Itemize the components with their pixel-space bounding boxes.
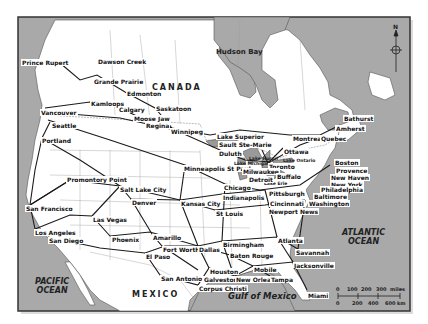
city-label: Moose Jaw (133, 115, 171, 122)
region-label-mexico: MEXICO (132, 290, 179, 299)
scale-km-600: 600 (385, 300, 395, 306)
city-label: Denver (131, 199, 157, 206)
city-label: Saskatoon (155, 105, 192, 112)
city-label: Philadelphia (320, 186, 364, 193)
water-label-gulf-of-mexico: Gulf of Mexico (228, 291, 297, 301)
city-label: Miami (307, 292, 329, 299)
city-label: Baton Rouge (229, 252, 274, 259)
city-label: Atlanta (277, 237, 304, 244)
city-label: Jacksonville (293, 262, 335, 269)
city-label: Promontory Point (66, 176, 128, 183)
city-label: Milwaukee (242, 168, 280, 175)
city-label: Calgary (118, 106, 146, 113)
city-label: Dallas (198, 246, 221, 253)
city-label: Indianapolis (222, 194, 265, 201)
city-label: Amarillo (152, 234, 182, 241)
city-label: Tampa (270, 276, 294, 283)
city-label: Pittsburgh (268, 190, 306, 197)
scale-km-200: 200 (352, 300, 362, 306)
city-label: Winnipeg (170, 128, 204, 135)
water-label-hudson-bay: Hudson Bay (216, 48, 263, 56)
city-label: Detroit (248, 176, 274, 183)
city-label: Prince Rupert (21, 59, 69, 66)
city-label: Sault Ste-Marie (218, 141, 273, 148)
city-label: Los Angeles (34, 229, 77, 236)
city-label: Baltimore (313, 193, 348, 200)
city-label: Ottawa (283, 148, 309, 155)
city-label: Phoenix (111, 236, 140, 243)
city-label: Portland (41, 137, 72, 144)
city-label: Cincinnati (269, 200, 305, 207)
city-label: Mobile (253, 266, 278, 273)
city-label: Fort Worth (162, 246, 201, 253)
city-label: Salt Lake City (119, 186, 167, 193)
city-label: Amherst (335, 125, 366, 132)
city-label: Vancouver (40, 109, 78, 116)
city-label: Regina (145, 122, 170, 129)
city-label: Corpus Christi (198, 285, 248, 292)
scale-miles-100: 100 (347, 286, 357, 292)
city-label: Edmonton (126, 90, 162, 97)
scale-miles-0: 0 (336, 286, 339, 292)
scale-km-400: 400 (368, 300, 378, 306)
city-label: Galveston (203, 276, 239, 283)
compass-north-label: N (393, 23, 398, 30)
city-label: San Antonio (160, 275, 203, 282)
city-label: Newport News (268, 208, 319, 215)
city-label: Lake Superior (216, 133, 265, 140)
city-label: Buffalo (276, 173, 302, 180)
map-canvas: CANADA MEXICO Hudson Bay PACIFIC OCEAN A… (0, 0, 428, 324)
city-label: Las Vegas (92, 216, 128, 223)
scale-km-0: 0 (336, 300, 339, 306)
city-label: Chicago (223, 184, 252, 191)
water-label-atlantic-ocean: ATLANTIC OCEAN (342, 228, 385, 246)
city-label: Grande Prairie (93, 78, 144, 85)
city-label: San Diego (48, 237, 84, 244)
scale-miles-unit: miles (390, 286, 405, 292)
city-label: Provence (335, 167, 368, 174)
city-label: Houston (209, 268, 239, 275)
city-label: Seattle (51, 122, 77, 129)
city-label: Bathurst (343, 115, 374, 122)
city-label: New Haven (330, 174, 370, 181)
city-label: Quebec (320, 135, 347, 142)
city-label: Washington (308, 200, 350, 207)
city-label: Kansas City (180, 200, 222, 207)
city-label: St Louis (215, 210, 244, 217)
city-label: Dawson Creek (97, 58, 147, 65)
city-label: Savannah (295, 249, 330, 256)
scale-km-unit: km (397, 300, 406, 306)
water-label-pacific-ocean: PACIFIC OCEAN (35, 277, 69, 295)
city-label: Duluth (218, 150, 243, 157)
scale-miles-300: 300 (376, 286, 386, 292)
city-label: San Francisco (25, 205, 74, 212)
city-label: Boston (334, 159, 360, 166)
city-label: El Paso (145, 253, 171, 260)
scale-miles-200: 200 (361, 286, 371, 292)
city-label: Birmingham (222, 241, 265, 248)
